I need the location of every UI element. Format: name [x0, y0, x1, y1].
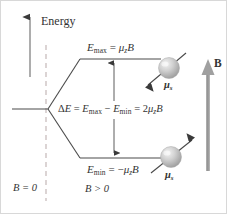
upper-equals: =: [110, 41, 116, 53]
upper-moment-label: μs: [164, 80, 173, 92]
delta-equals-1: =: [74, 103, 80, 114]
magnetic-field-label: B: [214, 58, 222, 70]
zero-field-condition-label: B = 0: [13, 183, 37, 194]
upper-b-symbol: B: [127, 41, 134, 53]
upper-e-symbol: E: [87, 41, 94, 53]
magnetic-field-arrow: [202, 59, 215, 171]
delta-emin-subscript: min: [120, 107, 132, 116]
lower-level-equation: Emin = −μzB: [87, 164, 139, 176]
delta-b-symbol: B: [156, 103, 162, 114]
lower-spin-moment-group: [151, 140, 192, 173]
positive-field-condition-label: B > 0: [85, 184, 109, 195]
delta-emax-subscript: max: [89, 107, 102, 116]
lower-equals: =: [108, 163, 114, 175]
lower-e-subscript: min: [94, 168, 106, 177]
delta-e-symbol: E: [65, 103, 71, 114]
delta-symbol: Δ: [58, 103, 65, 114]
lower-b-symbol: B: [132, 163, 139, 175]
energy-axis-label: Energy: [41, 15, 75, 27]
upper-e-subscript: max: [94, 46, 107, 55]
delta-minus-sign: −: [105, 103, 111, 114]
upper-level-equation: Emax = μzB: [87, 42, 134, 54]
upper-moment-subscript: s: [170, 84, 173, 92]
lower-moment-subscript: s: [171, 174, 174, 182]
delta-equals-2: =: [134, 103, 140, 114]
lower-e-symbol: E: [87, 163, 94, 175]
lower-moment-label: μs: [165, 170, 174, 182]
delta-e-equation: ΔE = Emax − Emin = 2μzB: [58, 104, 163, 115]
energy-level-splitting-diagram: Energy Emax = μzB Emin = −μzB ΔE = Emax …: [0, 0, 227, 214]
